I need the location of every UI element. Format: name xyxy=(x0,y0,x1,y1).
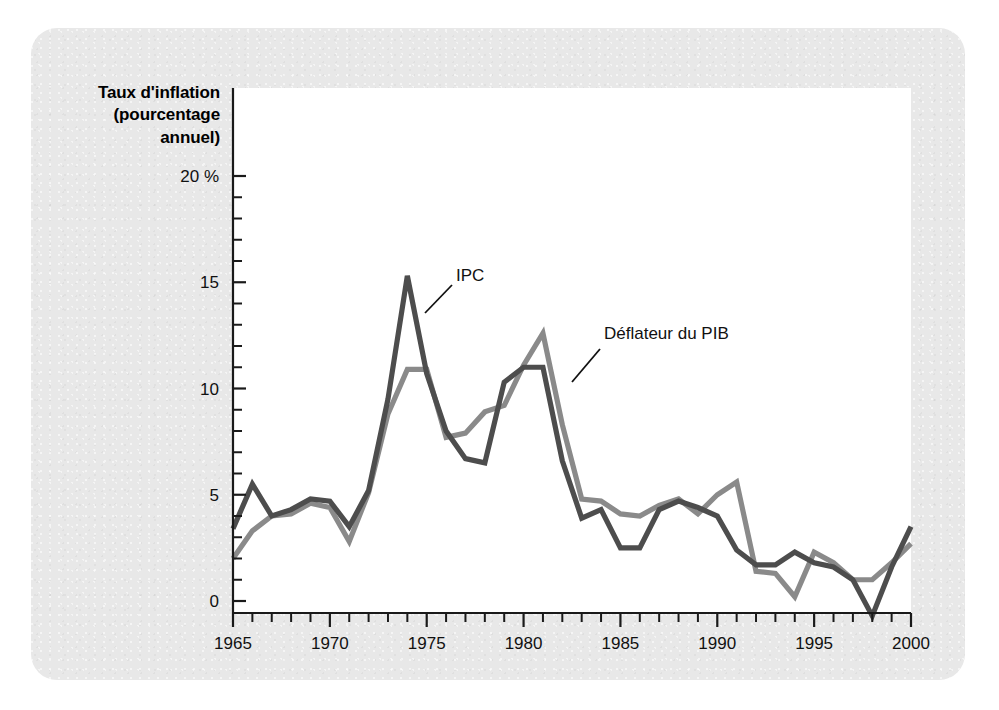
plot-background xyxy=(233,88,911,613)
y-tick-label: 20 % xyxy=(180,167,219,186)
x-tick-label: 1995 xyxy=(795,634,833,653)
x-tick-label: 1975 xyxy=(408,634,446,653)
y-tick-label: 5 xyxy=(210,486,219,505)
y-tick-label: 0 xyxy=(210,592,219,611)
x-tick-label: 1990 xyxy=(698,634,736,653)
x-tick-label: 2000 xyxy=(892,634,930,653)
cpi-series-label: IPC xyxy=(456,266,484,285)
x-tick-label: 1970 xyxy=(311,634,349,653)
inflation-line-chart: 20 %151050196519701975198019851990199520… xyxy=(0,0,999,710)
deflator-series-label: Déflateur du PIB xyxy=(604,324,729,343)
y-tick-label: 15 xyxy=(200,273,219,292)
x-tick-label: 1985 xyxy=(602,634,640,653)
x-tick-label: 1980 xyxy=(505,634,543,653)
y-tick-label: 10 xyxy=(200,380,219,399)
x-tick-label: 1965 xyxy=(214,634,252,653)
plot-wrapper: Taux d'inflation (pourcentage annuel) 20… xyxy=(0,0,999,710)
figure-root: Taux d'inflation (pourcentage annuel) 20… xyxy=(0,0,999,710)
